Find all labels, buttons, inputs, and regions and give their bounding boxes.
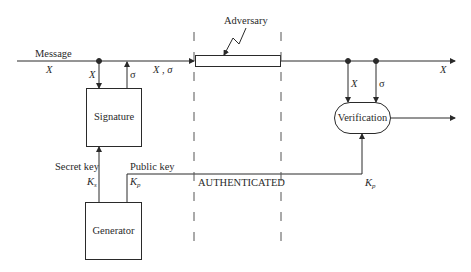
secret-key-label: Secret key <box>55 162 99 173</box>
sigma-up-label: σ <box>130 70 136 81</box>
public-key-label: Public key <box>130 162 175 173</box>
adversary-label: Adversary <box>224 16 268 27</box>
signature-block-label: Signature <box>86 112 142 123</box>
x-down-right-label: X <box>351 79 357 90</box>
x-down-left-label: X <box>89 70 95 81</box>
authenticated-label: AUTHENTICATED <box>198 178 285 189</box>
diagram-canvas <box>0 0 471 272</box>
verification-block-label: Verification <box>334 113 391 124</box>
sigma-down-right-label: σ <box>379 79 385 90</box>
x-out-label: X <box>440 65 446 76</box>
kp-label: Kp <box>130 177 141 189</box>
message-label: Message <box>35 49 72 60</box>
kp-right-label: Kp <box>365 178 376 190</box>
x-sigma-label: X , σ <box>153 65 172 76</box>
message-var-label: X <box>46 65 52 76</box>
channel-box <box>196 56 281 67</box>
ks-label: Ks <box>87 177 97 189</box>
generator-block-label: Generator <box>85 226 142 237</box>
adversary-lightning-arrow <box>224 28 246 55</box>
